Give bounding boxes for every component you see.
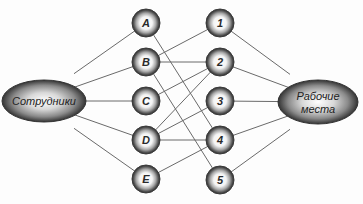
employees-group-node: Сотрудники (2, 80, 86, 122)
bipartite-diagram: Сотрудники Рабочие места ABCDE12345 (0, 0, 363, 204)
nodes-layer: Сотрудники Рабочие места ABCDE12345 (2, 9, 358, 194)
workplaces-group-label-line1: Рабочие (296, 90, 339, 102)
workplace-node-label: 4 (216, 134, 223, 146)
workplace-node-label: 5 (217, 174, 224, 186)
workplace-node-4: 4 (206, 126, 234, 154)
employee-node-D: D (132, 126, 160, 154)
employee-node-label: C (142, 95, 151, 107)
edges-layer (74, 23, 290, 180)
workplace-node-1: 1 (206, 9, 234, 37)
employee-node-label: B (142, 56, 150, 68)
workplace-node-2: 2 (206, 48, 234, 76)
employee-node-A: A (132, 9, 160, 37)
workplaces-group-label-line2: места (301, 103, 335, 115)
employee-node-C: C (132, 87, 160, 115)
employee-node-label: E (142, 173, 150, 185)
employee-node-B: B (132, 48, 160, 76)
workplace-node-label: 3 (217, 95, 223, 107)
workplace-node-label: 2 (216, 56, 223, 68)
workplaces-group-node: Рабочие места (278, 80, 358, 124)
employee-node-E: E (132, 165, 160, 193)
employee-node-label: D (142, 134, 150, 146)
workplace-node-5: 5 (206, 166, 234, 194)
workplace-node-label: 1 (217, 17, 223, 29)
employees-group-label: Сотрудники (12, 95, 76, 107)
workplace-node-3: 3 (206, 87, 234, 115)
employee-node-label: A (141, 17, 150, 29)
